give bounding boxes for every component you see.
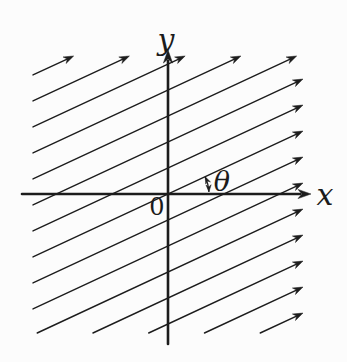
field-arrow-line xyxy=(33,57,238,153)
field-arrow-line xyxy=(33,57,294,179)
field-arrow-line xyxy=(260,314,300,333)
field-arrow-line xyxy=(33,57,127,101)
field-arrow-line xyxy=(33,57,71,75)
field-arrow-line xyxy=(33,158,300,283)
field-arrow-line xyxy=(33,80,300,205)
vector-field-figure: x y 0 θ xyxy=(0,0,347,362)
field-arrow-line xyxy=(33,57,182,127)
field-arrow-line xyxy=(204,288,300,333)
origin-label: 0 xyxy=(149,195,164,219)
x-axis-label: x xyxy=(317,180,334,210)
field-arrow-line xyxy=(93,236,300,333)
field-arrow-line xyxy=(33,106,300,231)
y-axis-label: y xyxy=(158,25,175,55)
field-arrow-line xyxy=(149,262,301,333)
field-arrow-line xyxy=(33,184,300,309)
theta-label: θ xyxy=(214,168,230,195)
